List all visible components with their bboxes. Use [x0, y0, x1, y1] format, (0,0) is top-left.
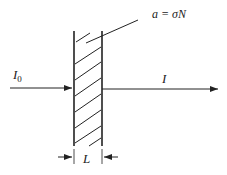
slab	[74, 20, 138, 146]
incident-intensity-label: I0	[12, 67, 22, 84]
label-leader-line	[86, 20, 138, 43]
slab-absorption-diagram: a = σN I0 I L	[0, 0, 227, 175]
transmitted-intensity-label: I	[161, 71, 167, 86]
absorption-label: a = σN	[152, 7, 187, 21]
hatching	[75, 33, 101, 146]
thickness-label: L	[82, 151, 90, 166]
